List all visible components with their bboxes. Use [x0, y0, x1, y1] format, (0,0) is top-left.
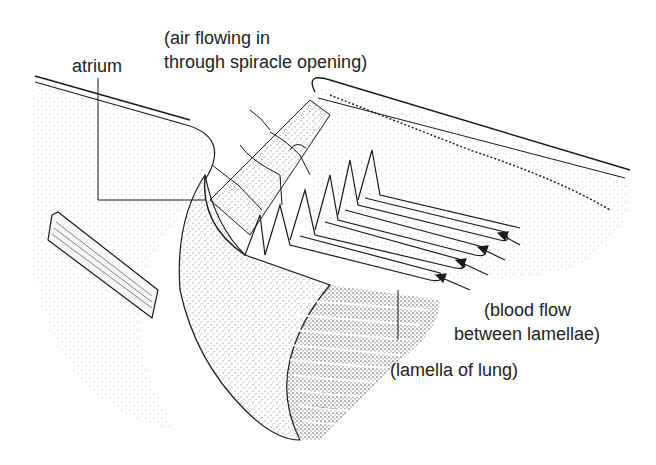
label-blood-flow-line1: (blood flow: [484, 300, 571, 320]
label-lamella: (lamella of lung): [390, 360, 518, 380]
label-blood-flow-line2: between lamellae): [454, 324, 600, 344]
label-atrium: atrium: [72, 56, 122, 76]
label-air-flow-line1: (air flowing in: [164, 28, 270, 48]
book-lung-diagram: atrium (air flowing in through spiracle …: [0, 0, 656, 465]
body-wall-right: [300, 78, 630, 285]
label-air-flow-line2: through spiracle opening): [164, 52, 367, 72]
